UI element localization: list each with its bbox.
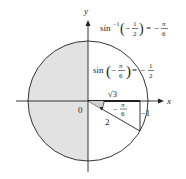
func-sin: sin	[93, 65, 104, 75]
frac-num: π	[162, 20, 166, 28]
origin-label: 0	[78, 105, 83, 115]
equals: =	[132, 65, 137, 75]
frac-num: π	[119, 62, 123, 70]
minus: −	[111, 65, 116, 75]
angle-label: − π 6	[113, 101, 127, 118]
frac-den: 6	[162, 30, 166, 38]
y-axis-label: y	[83, 6, 88, 16]
superscript: −1	[113, 21, 119, 27]
minus: −	[113, 105, 118, 114]
x-axis-label: x	[166, 96, 171, 106]
equals: =	[146, 23, 151, 33]
inverse-sine-equation: sin −1 ( − 1 2 ) = − π 6	[100, 20, 168, 38]
x-axis-arrow-icon	[158, 99, 164, 104]
adjacent-label: √3	[108, 89, 117, 99]
hypotenuse-label: 2	[105, 117, 110, 127]
func-sin: sin	[100, 23, 111, 33]
frac-den: 6	[121, 110, 125, 118]
frac-num: 1	[133, 20, 137, 28]
frac-num: π	[121, 101, 125, 109]
paren-close: )	[126, 63, 131, 80]
frac-den: 2	[149, 72, 153, 80]
inverse-sine-diagram: y x 0 sin −1 ( − 1 2 ) = − π 6 sin ( − π…	[0, 0, 186, 179]
minus: −	[125, 23, 130, 33]
sine-equation: sin ( − π 6 ) = − 1 2	[93, 62, 154, 80]
y-axis-arrow-icon	[86, 20, 91, 26]
frac-den: 2	[133, 30, 137, 38]
minus: −	[140, 65, 145, 75]
paren-close: )	[139, 21, 144, 37]
frac-den: 6	[119, 72, 123, 80]
opposite-label: −1	[141, 108, 150, 118]
frac-num: 1	[149, 62, 153, 70]
minus: −	[154, 23, 159, 33]
